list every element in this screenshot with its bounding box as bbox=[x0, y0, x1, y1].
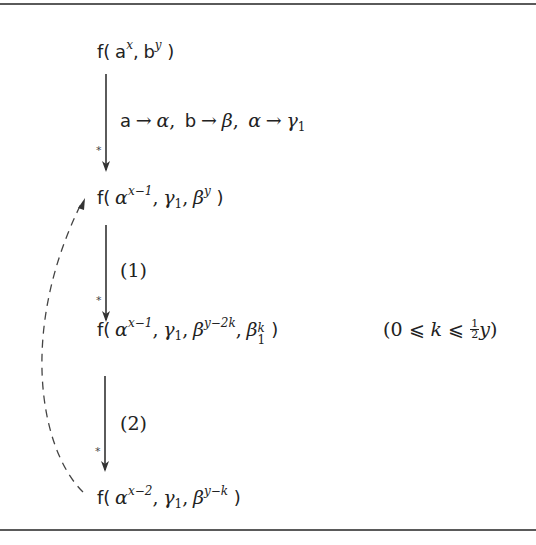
arrow-glyph: → bbox=[266, 109, 282, 131]
star-marker: * bbox=[96, 294, 102, 307]
exp-x-minus-2: x−2 bbox=[128, 484, 152, 498]
arrow-step-2 bbox=[102, 225, 110, 322]
star-marker: * bbox=[96, 144, 102, 157]
node-initial: f( ax, by ) bbox=[97, 42, 174, 61]
symbol-gamma: γ bbox=[163, 186, 174, 208]
symbol-gamma: γ bbox=[163, 486, 174, 508]
comma: , bbox=[169, 109, 175, 131]
symbol-alpha: α bbox=[115, 318, 128, 340]
exp-x: x bbox=[126, 38, 133, 52]
edge-label-2: (2) bbox=[120, 414, 147, 433]
comma: , bbox=[182, 486, 188, 508]
constraint-close: ) bbox=[490, 318, 497, 340]
edge-label-substitution: a → α, b → β, α → γ1 bbox=[120, 111, 306, 130]
fraction-half: 12 bbox=[470, 319, 479, 340]
exp-y: y bbox=[204, 184, 211, 198]
subscript-1: 1 bbox=[175, 329, 183, 343]
comma: , bbox=[182, 318, 188, 340]
exp-y: y bbox=[155, 38, 162, 52]
exp-y-minus-k: y−k bbox=[204, 484, 228, 498]
symbol-beta: β bbox=[222, 109, 233, 131]
constraint-open: (0 ⩽ bbox=[383, 318, 431, 340]
comma: , bbox=[233, 109, 239, 131]
edge-label-1: (1) bbox=[120, 261, 147, 280]
exp-x-minus-1: x−1 bbox=[128, 184, 152, 198]
subscript-1: 1 bbox=[258, 334, 266, 346]
comma: , bbox=[152, 486, 158, 508]
symbol-beta: β bbox=[193, 186, 204, 208]
derivation-arrows bbox=[0, 0, 536, 545]
dashed-loop-arrow bbox=[42, 198, 85, 492]
symbol-alpha: α bbox=[248, 109, 261, 131]
f-open: f( bbox=[97, 187, 110, 208]
symbol-gamma: γ bbox=[163, 318, 174, 340]
subscript-1: 1 bbox=[175, 197, 183, 211]
symbol-beta: β bbox=[247, 318, 258, 340]
comma: , bbox=[152, 186, 158, 208]
f-open: f( bbox=[97, 41, 110, 62]
exp-y-minus-2k: y−2k bbox=[204, 316, 236, 330]
close-paren: ) bbox=[228, 487, 241, 508]
exp-x-minus-1: x−1 bbox=[128, 316, 152, 330]
close-paren: ) bbox=[211, 187, 224, 208]
frac-denominator: 2 bbox=[470, 330, 479, 340]
symbol-alpha: α bbox=[115, 486, 128, 508]
node-step-2: f( αx−1, γ1, βy−2k, βk1 ) bbox=[97, 320, 278, 339]
close-paren: ) bbox=[266, 319, 279, 340]
symbol-alpha: α bbox=[115, 186, 128, 208]
symbol-y: y bbox=[479, 318, 490, 340]
comma: , bbox=[236, 318, 242, 340]
symbol-gamma: γ bbox=[287, 109, 298, 131]
symbol-beta: β bbox=[193, 318, 204, 340]
arrow-step-3 bbox=[101, 376, 109, 472]
symbol-alpha: α bbox=[156, 109, 169, 131]
subscript-1: 1 bbox=[175, 497, 183, 511]
close-paren: ) bbox=[162, 41, 175, 62]
f-open: f( bbox=[97, 319, 110, 340]
arrow-glyph: → bbox=[201, 109, 217, 131]
star-marker: * bbox=[95, 445, 101, 458]
symbol-a: a bbox=[115, 41, 126, 62]
symbol-beta: β bbox=[193, 486, 204, 508]
arrow-step-1 bbox=[102, 74, 110, 172]
comma: , bbox=[182, 186, 188, 208]
node-step-3: f( αx−2, γ1, βy−k ) bbox=[97, 488, 241, 507]
subscript-1: 1 bbox=[298, 120, 306, 134]
comma: , bbox=[152, 318, 158, 340]
le-glyph: ⩽ bbox=[442, 318, 470, 340]
symbol-k: k bbox=[431, 318, 443, 340]
symbol-b: b bbox=[185, 110, 196, 131]
node-step-1: f( αx−1, γ1, βy ) bbox=[97, 188, 224, 207]
f-open: f( bbox=[97, 487, 110, 508]
comma: , bbox=[133, 41, 139, 62]
constraint-k-range: (0 ⩽ k ⩽ 12y) bbox=[383, 320, 497, 342]
symbol-a: a bbox=[120, 110, 131, 131]
arrow-glyph: → bbox=[136, 109, 152, 131]
symbol-b: b bbox=[143, 41, 154, 62]
